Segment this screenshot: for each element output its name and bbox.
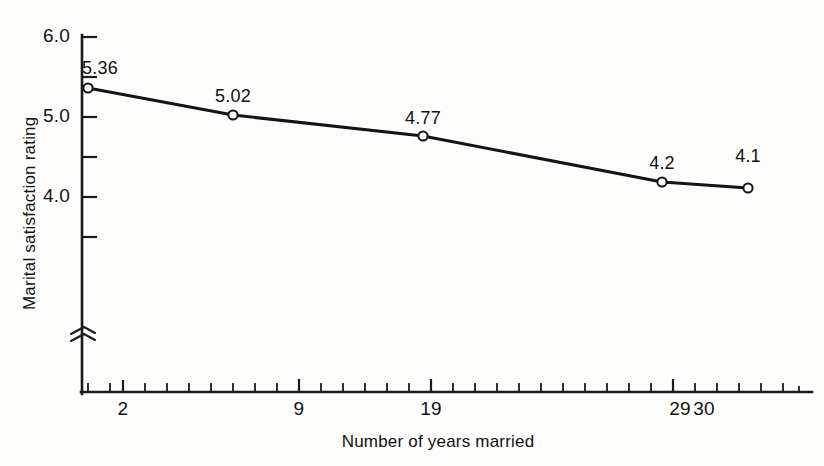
data-label-4: 4.2 bbox=[637, 153, 687, 174]
y-axis-title: Marital satisfaction rating bbox=[20, 117, 40, 310]
x-tick-label-2: 2 bbox=[103, 398, 143, 420]
data-label-5: 4.1 bbox=[723, 146, 773, 167]
data-point-marker bbox=[83, 83, 92, 92]
x-tick-label-19: 19 bbox=[411, 398, 451, 420]
x-axis-title: Number of years married bbox=[318, 432, 558, 452]
chart-figure: 6.0 5.0 4.0 2 9 19 29 30 5.36 5.02 4.77 … bbox=[0, 0, 824, 466]
data-label-3: 4.77 bbox=[393, 108, 453, 129]
data-point-marker bbox=[228, 110, 237, 119]
data-point-marker bbox=[657, 177, 666, 186]
data-point-markers bbox=[83, 83, 752, 192]
x-tick-label-9: 9 bbox=[279, 398, 319, 420]
x-axis-ticks bbox=[88, 379, 799, 392]
data-point-marker bbox=[418, 131, 427, 140]
data-label-1: 5.36 bbox=[70, 58, 130, 79]
x-tick-label-30: 30 bbox=[684, 398, 724, 420]
data-point-marker bbox=[743, 183, 752, 192]
data-label-2: 5.02 bbox=[203, 86, 263, 107]
y-tick-label-6: 6.0 bbox=[18, 25, 70, 47]
